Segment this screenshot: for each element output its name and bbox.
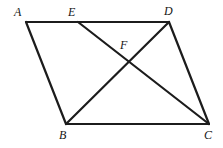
segment-bd-diagonal bbox=[66, 22, 169, 124]
point-label-e: E bbox=[68, 6, 75, 18]
point-label-c: C bbox=[204, 129, 212, 141]
point-label-f: F bbox=[120, 39, 127, 51]
point-label-b: B bbox=[59, 129, 66, 141]
geometry-figure: A E D F B C bbox=[0, 0, 223, 148]
segment-ab-left-edge bbox=[26, 22, 66, 124]
point-label-d: D bbox=[164, 5, 173, 17]
point-label-a: A bbox=[14, 6, 21, 18]
figure-canvas bbox=[0, 0, 223, 148]
